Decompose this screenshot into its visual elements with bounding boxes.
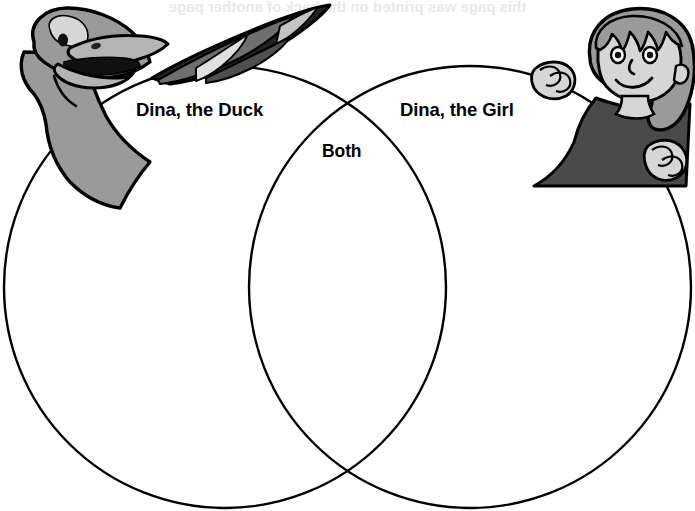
venn-label-left: Dina, the Duck xyxy=(136,101,263,120)
girl-pupil-right xyxy=(647,52,653,58)
girl-hand-upper xyxy=(532,62,575,99)
girl-illustration xyxy=(532,9,695,186)
girl-neck xyxy=(616,96,654,119)
venn-label-overlap: Both xyxy=(322,143,361,161)
venn-diagram-canvas xyxy=(0,0,695,511)
girl-ear xyxy=(674,65,688,84)
girl-hand-lower xyxy=(644,140,687,180)
duck-eye xyxy=(58,34,68,47)
girl-pupil-left xyxy=(615,52,621,58)
venn-label-right: Dina, the Girl xyxy=(400,101,514,120)
worksheet-page: this page was printed on the back of ano… xyxy=(0,0,695,511)
